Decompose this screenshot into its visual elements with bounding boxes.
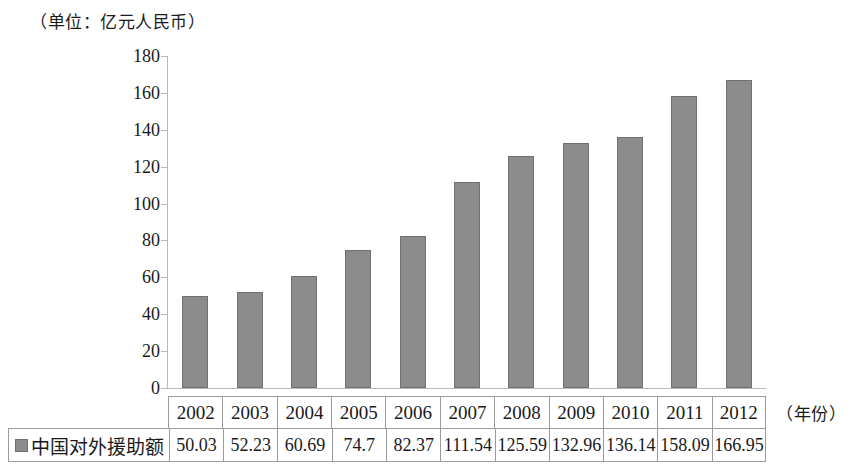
year-cell: 2009 xyxy=(549,396,603,428)
data-table: 2002200320042005200620072008200920102011… xyxy=(8,396,766,462)
value-cell: 158.09 xyxy=(657,429,711,461)
year-cell: 2012 xyxy=(712,396,766,428)
year-header-row: 2002200320042005200620072008200920102011… xyxy=(168,396,766,428)
chart-plot-area: 020406080100120140160180 xyxy=(0,48,864,396)
bar[interactable] xyxy=(563,143,589,388)
value-cell: 125.59 xyxy=(495,429,549,461)
y-axis-tick-mark xyxy=(161,130,167,131)
year-cell: 2010 xyxy=(603,396,657,428)
bar[interactable] xyxy=(671,96,697,388)
y-axis-tick-label: 0 xyxy=(100,379,160,397)
year-cell: 2007 xyxy=(440,396,494,428)
bar-slot xyxy=(168,56,222,388)
bar[interactable] xyxy=(617,137,643,388)
year-cell: 2004 xyxy=(277,396,331,428)
y-axis-tick-mark xyxy=(161,277,167,278)
y-axis-tick-label: 100 xyxy=(100,195,160,213)
value-cell: 136.14 xyxy=(603,429,657,461)
year-cell: 2011 xyxy=(657,396,711,428)
bar[interactable] xyxy=(182,296,208,388)
value-cell: 132.96 xyxy=(549,429,603,461)
unit-caption: （单位：亿元人民币） xyxy=(30,8,205,33)
y-axis-tick-mark xyxy=(161,388,167,389)
y-axis-tick-label: 120 xyxy=(100,158,160,176)
y-axis-tick-mark xyxy=(161,56,167,57)
bar-slot xyxy=(657,56,711,388)
y-axis-tick-label: 140 xyxy=(100,121,160,139)
value-row: 中国对外援助额 50.0352.2360.6974.782.37111.5412… xyxy=(8,428,766,462)
bar[interactable] xyxy=(400,236,426,388)
y-axis-tick-label: 80 xyxy=(100,231,160,249)
bar[interactable] xyxy=(237,292,263,388)
bar[interactable] xyxy=(508,156,534,388)
year-cell: 2008 xyxy=(494,396,548,428)
bar[interactable] xyxy=(726,80,752,388)
bar-slot xyxy=(385,56,439,388)
year-cell: 2006 xyxy=(385,396,439,428)
x-axis-title: （年份） xyxy=(776,396,846,428)
y-axis-tick-mark xyxy=(161,204,167,205)
year-cell: 2003 xyxy=(222,396,276,428)
value-cell: 166.95 xyxy=(712,429,766,461)
y-axis-tick-label: 60 xyxy=(100,268,160,286)
bar-slot xyxy=(494,56,548,388)
bar-slot xyxy=(331,56,385,388)
value-cell: 50.03 xyxy=(169,429,223,461)
y-axis-tick-mark xyxy=(161,351,167,352)
y-axis-tick-label: 160 xyxy=(100,84,160,102)
y-axis-tick-label: 40 xyxy=(100,305,160,323)
bar-slot xyxy=(440,56,494,388)
value-cell: 74.7 xyxy=(332,429,386,461)
bar-series-layer xyxy=(168,56,766,388)
value-cell: 60.69 xyxy=(277,429,331,461)
value-cell: 111.54 xyxy=(440,429,494,461)
y-axis-tick-mark xyxy=(161,93,167,94)
x-axis-line xyxy=(167,388,766,389)
bar-slot xyxy=(712,56,766,388)
year-cell: 2005 xyxy=(331,396,385,428)
value-cell: 82.37 xyxy=(386,429,440,461)
legend-entry: 中国对外援助额 xyxy=(9,429,169,461)
y-axis-tick-mark xyxy=(161,314,167,315)
legend-label: 中国对外援助额 xyxy=(31,432,164,459)
legend-swatch-icon xyxy=(15,439,28,452)
bar-slot xyxy=(603,56,657,388)
year-cell: 2002 xyxy=(168,396,222,428)
bar[interactable] xyxy=(345,250,371,388)
bar-slot xyxy=(549,56,603,388)
y-axis-tick-label: 20 xyxy=(100,342,160,360)
y-axis-tick-mark xyxy=(161,240,167,241)
y-axis-tick-label: 180 xyxy=(100,47,160,65)
bar[interactable] xyxy=(291,276,317,388)
bar[interactable] xyxy=(454,182,480,388)
bar-slot xyxy=(222,56,276,388)
y-axis-tick-labels: 020406080100120140160180 xyxy=(100,48,160,396)
y-axis-tick-mark xyxy=(161,167,167,168)
bar-slot xyxy=(277,56,331,388)
value-cell: 52.23 xyxy=(223,429,277,461)
